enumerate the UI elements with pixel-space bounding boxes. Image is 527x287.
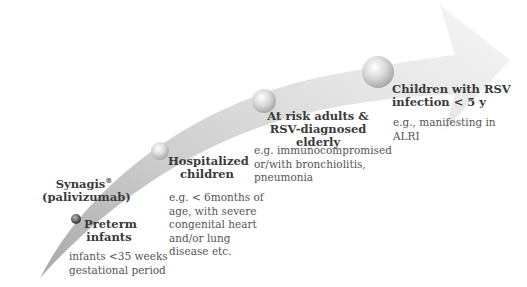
product-label: Synagis® (palivizumab) <box>42 174 126 204</box>
stage-bubble-4 <box>362 56 394 88</box>
stage-1-desc: infants <35 weeks gestational period <box>69 250 168 277</box>
stage-bubble-2 <box>151 142 169 160</box>
stage-4-title: Children with RSV infection < 5 y <box>392 83 511 109</box>
stage-4-desc: e.g., manifesting in ALRI <box>393 116 496 143</box>
stage-1-title: Preterm infants <box>84 218 134 244</box>
stage-2-desc: e.g. < 6months of age, with severe conge… <box>169 191 264 259</box>
stage-bubble-1 <box>71 214 81 224</box>
stage-3-desc: e.g. immunocompromised or/with bronchiol… <box>254 144 392 185</box>
registered-mark: ® <box>105 176 112 185</box>
product-name: Synagis <box>56 177 106 191</box>
stage-2-title: Hospitalized children <box>168 155 246 181</box>
product-generic: (palivizumab) <box>42 191 126 204</box>
